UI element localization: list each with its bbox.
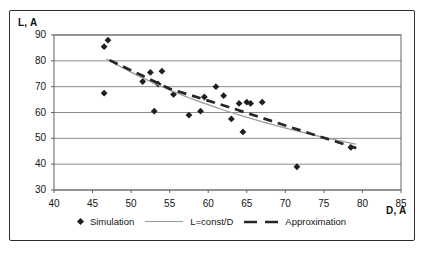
x-axis-title: D, A: [386, 205, 406, 216]
data-point-diamond: [228, 116, 235, 123]
y-tick-label: 30: [12, 184, 46, 196]
x-tick-label: 60: [193, 198, 223, 210]
y-tick-label: 50: [12, 132, 46, 144]
data-point-diamond: [220, 92, 227, 99]
x-tick-label: 80: [347, 198, 377, 210]
y-tick-label: 60: [12, 107, 46, 119]
legend-label-const-over-d: L=const/D: [190, 216, 233, 227]
chart-frame: L, A 30405060708090 40455055606570758085…: [9, 10, 415, 241]
plot-area: [54, 35, 401, 190]
legend-item-simulation: Simulation: [78, 216, 134, 227]
y-tick-label: 90: [12, 29, 46, 41]
x-tick-label: 75: [309, 198, 339, 210]
legend: Simulation L=const/D Approximation: [10, 216, 414, 227]
legend-label-simulation: Simulation: [90, 216, 134, 227]
legend-item-const-over-d: L=const/D: [145, 216, 233, 227]
y-axis-title: L, A: [18, 17, 37, 28]
diamond-marker-icon: [77, 218, 84, 225]
data-point-diamond: [213, 83, 220, 90]
x-tick-label: 55: [155, 198, 185, 210]
y-tick-label: 70: [12, 81, 46, 93]
data-point-diamond: [159, 68, 166, 75]
x-tick-label: 50: [116, 198, 146, 210]
approximation-line: [110, 60, 357, 148]
data-point-diamond: [101, 43, 108, 50]
y-tick-label: 40: [12, 158, 46, 170]
solid-line-icon: [145, 221, 183, 222]
x-tick-label: 65: [232, 198, 262, 210]
data-point-diamond: [105, 37, 112, 44]
chart-figure: L, A 30405060708090 40455055606570758085…: [0, 0, 423, 254]
x-tick-label: 40: [39, 198, 69, 210]
legend-item-approximation: Approximation: [244, 216, 346, 227]
data-point-diamond: [147, 69, 154, 76]
data-point-diamond: [259, 99, 266, 106]
data-point-diamond: [240, 128, 247, 135]
data-point-diamond: [101, 90, 108, 97]
data-point-diamond: [236, 100, 243, 107]
x-tick-label: 45: [78, 198, 108, 210]
data-point-diamond: [197, 108, 204, 115]
const-over-d-line: [106, 59, 356, 144]
y-tick-label: 80: [12, 55, 46, 67]
data-point-diamond: [151, 108, 158, 115]
x-tick-label: 70: [270, 198, 300, 210]
dashed-line-icon: [244, 220, 278, 224]
legend-label-approximation: Approximation: [285, 216, 346, 227]
